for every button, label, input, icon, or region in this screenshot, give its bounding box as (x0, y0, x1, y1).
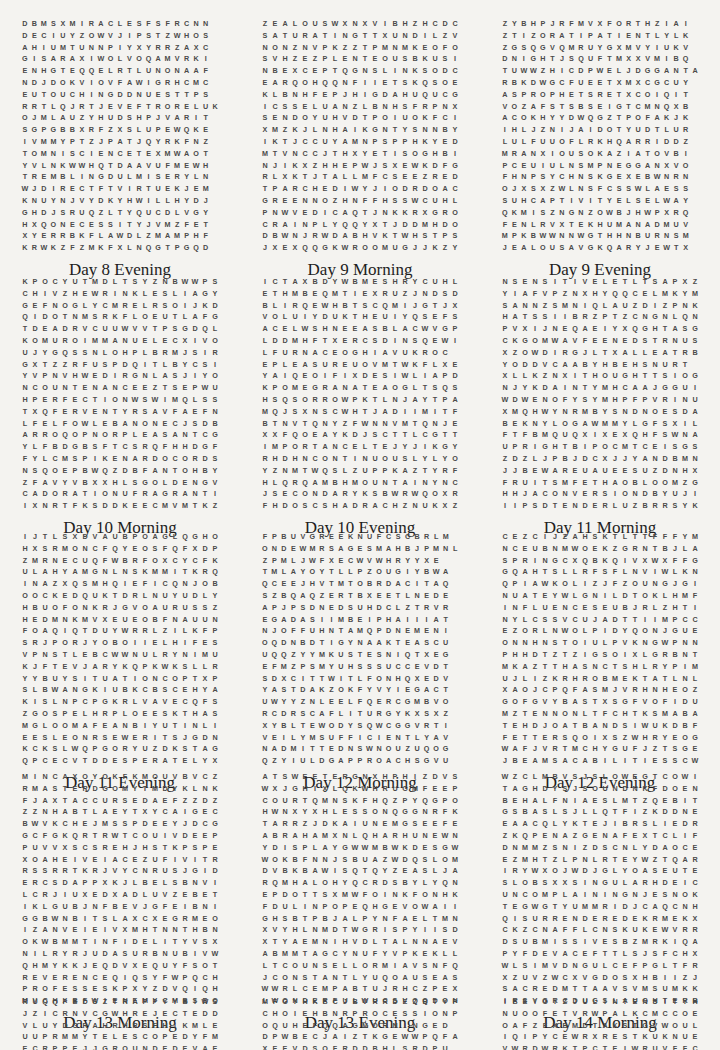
grid-letter: J (144, 219, 154, 231)
grid-letter: A (690, 429, 700, 441)
grid-letter: A (150, 429, 160, 441)
grid-letter: U (590, 637, 600, 649)
grid-letter: E (270, 18, 280, 30)
grid-letter: Z (201, 136, 211, 148)
grid-letter: U (280, 1020, 290, 1032)
grid-letter: K (370, 1031, 380, 1043)
grid-letter: X (450, 101, 460, 113)
grid-letter: I (450, 53, 460, 65)
grid-letter: X (570, 555, 580, 567)
grid-letter: F (182, 136, 192, 148)
grid-letter: R (690, 960, 700, 972)
grid-letter: W (390, 488, 400, 500)
grid-letter: Q (420, 89, 430, 101)
grid-letter: P (140, 996, 150, 1008)
grid-letter: X (662, 207, 672, 219)
grid-letter: E (20, 877, 30, 889)
grid-letter: N (290, 230, 300, 242)
grid-letter: B (440, 124, 450, 136)
grid-letter: A (550, 465, 560, 477)
grid-letter: T (600, 1043, 610, 1050)
grid-letter: G (580, 960, 590, 972)
grid-letter: C (690, 614, 700, 626)
grid-letter: R (163, 42, 173, 54)
grid-letter: D (39, 207, 49, 219)
grid-letter: R (320, 394, 330, 406)
grid-letter: S (201, 89, 211, 101)
grid-letter: G (690, 732, 700, 744)
grid-letter: D (430, 160, 440, 172)
grid-letter: B (270, 830, 280, 842)
grid-letter: M (70, 1031, 80, 1043)
grid-letter: A (340, 818, 350, 830)
grid-letter: G (191, 207, 201, 219)
grid-letter: O (360, 359, 370, 371)
grid-letter: G (403, 720, 413, 732)
grid-letter: E (550, 602, 560, 614)
grid-letter: T (90, 913, 100, 925)
grid-letter: W (548, 230, 558, 242)
grid-letter: S (153, 18, 163, 30)
grid-letter: P (190, 382, 200, 394)
grid-letter: Z (77, 30, 87, 42)
grid-letter: R (170, 602, 180, 614)
grid-letter: O (210, 531, 220, 543)
grid-letter: P (30, 276, 40, 288)
grid-letter: Y (40, 347, 50, 359)
grid-letter: Z (270, 465, 280, 477)
grid-letter: F (620, 806, 630, 818)
grid-letter: Z (650, 465, 660, 477)
grid-letter: A (510, 684, 520, 696)
grid-letter: Y (548, 112, 558, 124)
grid-letter: I (144, 195, 154, 207)
grid-letter: F (160, 543, 170, 555)
grid-letter: S (58, 207, 68, 219)
grid-letter: X (500, 406, 510, 418)
grid-letter: H (270, 453, 280, 465)
grid-letter: Z (630, 300, 640, 312)
grid-letter: E (300, 370, 310, 382)
grid-letter: P (420, 1031, 430, 1043)
grid-letter: I (30, 696, 40, 708)
grid-letter: L (380, 394, 390, 406)
grid-letter: Y (298, 732, 308, 744)
grid-letter: S (440, 924, 450, 936)
grid-letter: U (180, 602, 190, 614)
grid-letter: B (150, 948, 160, 960)
grid-letter: E (310, 300, 320, 312)
grid-letter: M (600, 382, 610, 394)
grid-letter: E (150, 708, 160, 720)
grid-letter: H (650, 877, 660, 889)
grid-letter: Y (150, 720, 160, 732)
grid-letter (690, 112, 700, 124)
grid-letter: E (620, 673, 630, 685)
grid-letter: J (30, 531, 40, 543)
grid-letter: J (590, 614, 600, 626)
grid-letter: D (300, 1043, 310, 1050)
grid-letter: I (327, 614, 337, 626)
grid-letter: O (50, 465, 60, 477)
grid-letter: O (310, 370, 320, 382)
grid-letter: L (40, 453, 50, 465)
grid-letter: C (39, 30, 49, 42)
grid-letter: R (650, 913, 660, 925)
grid-letter: E (180, 382, 190, 394)
grid-letter: J (68, 195, 78, 207)
grid-letter: R (40, 429, 50, 441)
grid-letter: O (550, 720, 560, 732)
grid-letter: L (529, 219, 539, 231)
grid-letter: I (605, 101, 615, 113)
grid-letter: G (350, 1020, 360, 1032)
grid-letter: P (160, 323, 170, 335)
grid-letter: T (340, 453, 350, 465)
grid-letter: I (420, 370, 430, 382)
grid-letter: G (350, 65, 360, 77)
grid-letter: T (643, 30, 653, 42)
grid-letter: E (510, 732, 520, 744)
grid-letter: E (370, 382, 380, 394)
grid-letter: K (403, 708, 413, 720)
grid-letter: P (140, 661, 150, 673)
grid-letter: H (690, 996, 700, 1008)
grid-letter: A (70, 795, 80, 807)
grid-letter: E (590, 830, 600, 842)
